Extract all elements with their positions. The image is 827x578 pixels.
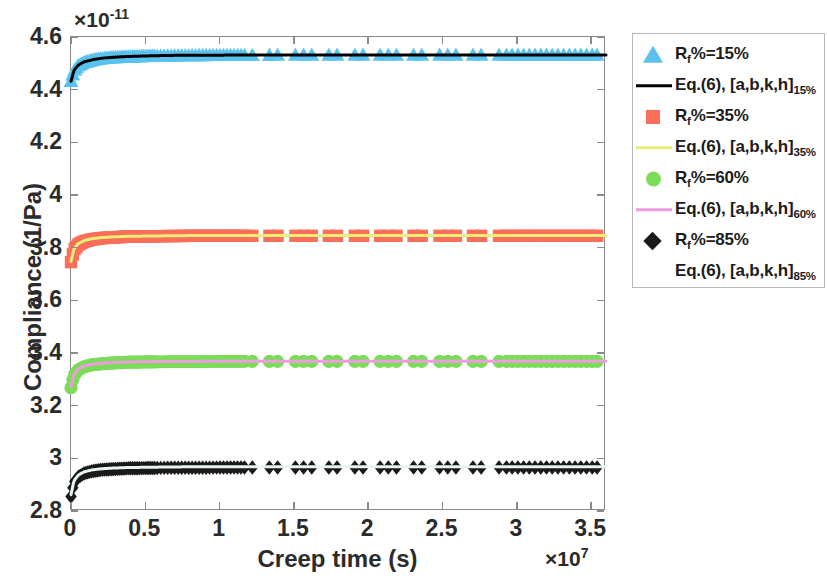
- x-tick: [70, 502, 72, 509]
- legend-row[interactable]: Eq.(6), [a,b,k,h]15%: [633, 70, 826, 101]
- legend-row[interactable]: Rf%=85%: [633, 225, 826, 256]
- x-tick-top: [70, 37, 72, 44]
- y-tick-label: 4.4: [0, 75, 62, 102]
- x-axis-title: Creep time (s): [70, 545, 605, 573]
- legend-diamond-marker: [643, 231, 661, 249]
- legend-triangle-marker: [643, 45, 663, 62]
- y-exponent-base: ×10: [74, 8, 110, 31]
- x-tick-top: [293, 37, 295, 44]
- legend-circle-marker: [646, 171, 661, 186]
- data-layer: [71, 37, 606, 511]
- y-tick: [71, 352, 78, 354]
- x-exponent-superscript: 7: [581, 545, 589, 561]
- x-exponent-base: ×10: [545, 547, 581, 570]
- x-tick: [219, 502, 221, 509]
- y-tick: [71, 458, 78, 460]
- y-tick-right: [597, 300, 604, 302]
- y-tick: [71, 510, 78, 512]
- legend-label: Eq.(6), [a,b,k,h]35%: [675, 137, 816, 158]
- legend-line-swatch: [636, 208, 672, 212]
- x-tick-label: 3: [509, 515, 522, 542]
- y-tick-right: [597, 36, 604, 38]
- x-axis-exponent: ×107: [545, 545, 588, 571]
- x-tick-top: [219, 37, 221, 44]
- x-tick-label: 2.5: [426, 515, 458, 542]
- x-tick-top: [145, 37, 147, 44]
- x-tick: [516, 502, 518, 509]
- legend-label: Rf%=60%: [675, 168, 749, 189]
- x-tick: [367, 502, 369, 509]
- y-tick-right: [597, 247, 604, 249]
- y-tick-right: [597, 458, 604, 460]
- legend-row[interactable]: Eq.(6), [a,b,k,h]35%: [633, 132, 826, 163]
- legend-label: Eq.(6), [a,b,k,h]15%: [675, 75, 816, 96]
- legend-line-swatch: [636, 84, 672, 88]
- legend-row[interactable]: Rf%=35%: [633, 101, 826, 132]
- y-exponent-superscript: -11: [110, 6, 129, 22]
- x-tick-label: 0.5: [128, 515, 160, 542]
- legend-row[interactable]: Rf%=15%: [633, 39, 826, 70]
- chart-figure: ×10-11 00.511.522.533.5 2.833.23.43.63.8…: [0, 0, 827, 578]
- legend-row[interactable]: Eq.(6), [a,b,k,h]60%: [633, 194, 826, 225]
- x-tick: [442, 502, 444, 509]
- x-tick-top: [367, 37, 369, 44]
- series-0: [64, 47, 605, 87]
- y-tick-right: [597, 89, 604, 91]
- y-tick-right: [597, 194, 604, 196]
- legend-row[interactable]: Eq.(6), [a,b,k,h]85%: [633, 256, 826, 287]
- y-tick-right: [597, 352, 604, 354]
- x-tick-top: [590, 37, 592, 44]
- y-tick: [71, 247, 78, 249]
- x-tick: [590, 502, 592, 509]
- plot-area: [70, 36, 605, 510]
- y-tick: [71, 300, 78, 302]
- legend-line-swatch: [636, 146, 672, 150]
- legend-label: Eq.(6), [a,b,k,h]85%: [675, 261, 816, 282]
- x-tick-label: 0: [64, 515, 77, 542]
- y-axis-exponent: ×10-11: [74, 6, 129, 32]
- y-tick: [71, 194, 78, 196]
- y-axis-title: Compliance (1/Pa): [19, 117, 47, 457]
- legend-line-swatch: [636, 270, 672, 274]
- legend-label: Eq.(6), [a,b,k,h]60%: [675, 199, 816, 220]
- legend-label: Rf%=85%: [675, 230, 749, 251]
- y-tick: [71, 36, 78, 38]
- x-tick-label: 1.5: [277, 515, 309, 542]
- y-tick: [71, 142, 78, 144]
- x-tick-label: 3.5: [574, 515, 606, 542]
- legend-square-marker: [646, 110, 660, 124]
- y-tick-label: 2.8: [0, 497, 62, 524]
- x-tick-top: [516, 37, 518, 44]
- y-tick-right: [597, 405, 604, 407]
- series-group: [64, 47, 607, 503]
- legend: Rf%=15%Eq.(6), [a,b,k,h]15%Rf%=35%Eq.(6)…: [632, 33, 825, 288]
- y-tick: [71, 89, 78, 91]
- x-tick: [293, 502, 295, 509]
- x-tick-top: [442, 37, 444, 44]
- y-tick-right: [597, 142, 604, 144]
- x-tick: [145, 502, 147, 509]
- y-tick-right: [597, 510, 604, 512]
- x-tick-label: 1: [212, 515, 225, 542]
- y-tick: [71, 405, 78, 407]
- legend-row[interactable]: Rf%=60%: [633, 163, 826, 194]
- x-tick-label: 2: [361, 515, 374, 542]
- y-tick-label: 4.6: [0, 23, 62, 50]
- legend-label: Rf%=15%: [675, 44, 749, 65]
- legend-label: Rf%=35%: [675, 106, 749, 127]
